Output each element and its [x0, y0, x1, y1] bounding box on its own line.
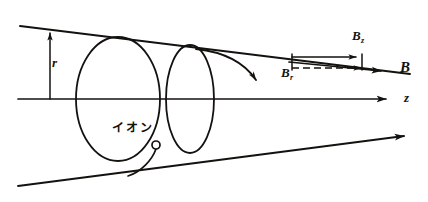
- converging-boundary-lower: [18, 136, 404, 186]
- ion-circle: [152, 141, 160, 149]
- axial-component-subscript: z: [361, 36, 364, 45]
- radial-component-label: Br: [281, 66, 293, 79]
- figure-container: r z B Bz Br イオン: [0, 0, 428, 202]
- ion-label: イオン: [112, 122, 154, 134]
- field-vector-arrow: [289, 62, 381, 71]
- field-vector-label: B: [400, 60, 410, 75]
- radius-label: r: [52, 56, 57, 69]
- axial-component-base: B: [352, 28, 361, 43]
- axial-component-label: Bz: [352, 29, 364, 42]
- radial-component-base: B: [281, 65, 290, 80]
- radial-component-subscript: r: [290, 73, 293, 82]
- z-axis-label: z: [404, 91, 409, 104]
